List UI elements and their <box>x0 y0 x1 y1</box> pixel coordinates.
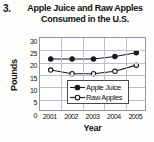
chart-legend: Apple JuiceRaw Apples <box>67 80 129 104</box>
x-axis-tick-labels: 20012002200320042005 <box>39 113 146 123</box>
data-point-marker <box>49 68 53 72</box>
y-tick-label: 15 <box>23 75 37 82</box>
data-point-marker <box>113 54 117 58</box>
data-point-marker <box>70 57 74 61</box>
x-axis-title: Year <box>39 123 146 133</box>
open-circle-icon <box>69 93 86 102</box>
horizontal-gridline <box>40 75 145 76</box>
data-point-marker <box>134 51 138 55</box>
legend-label: Raw Apples <box>86 93 122 102</box>
chart-figure: 3. Apple Juice and Raw Apples Consumed i… <box>0 0 154 142</box>
vertical-gridline <box>61 38 62 110</box>
y-tick-label: 25 <box>23 50 37 57</box>
chart-title-line-2: Consumed in the U.S. <box>18 14 152 25</box>
chart-title-line-1: Apple Juice and Raw Apples <box>27 3 143 13</box>
y-tick-label: 0 <box>23 112 37 119</box>
data-point-marker <box>49 57 53 61</box>
filled-circle-icon <box>69 83 86 92</box>
legend-label: Apple Juice <box>86 83 121 92</box>
y-axis-tick-labels: 051015202530 <box>23 33 37 113</box>
legend-item: Raw Apples <box>69 92 126 102</box>
y-tick-label: 5 <box>23 99 37 106</box>
x-tick-label: 2005 <box>122 113 148 121</box>
problem-number: 3. <box>3 4 11 14</box>
chart-title: Apple Juice and Raw Apples Consumed in t… <box>18 3 152 24</box>
data-point-marker <box>113 69 117 73</box>
y-tick-label: 10 <box>23 87 37 94</box>
data-point-marker <box>91 57 95 61</box>
horizontal-gridline <box>40 50 145 51</box>
y-tick-label: 30 <box>23 38 37 45</box>
horizontal-gridline <box>40 63 145 64</box>
y-tick-label: 20 <box>23 62 37 69</box>
legend-item: Apple Juice <box>69 82 126 92</box>
y-axis-title: Pounds <box>9 48 19 102</box>
